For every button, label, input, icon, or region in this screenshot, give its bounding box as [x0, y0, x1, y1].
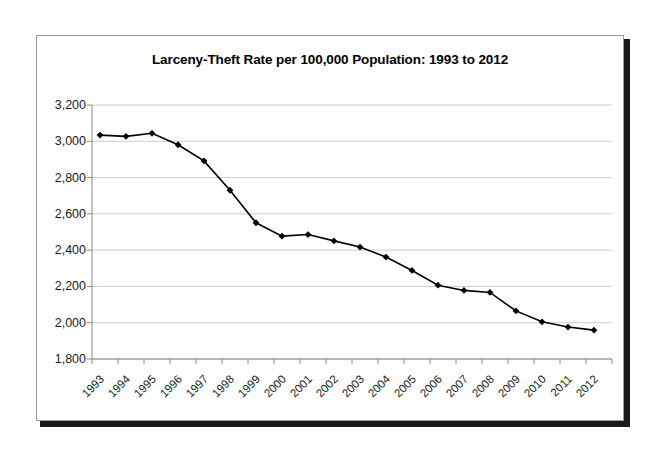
- data-point-marker[interactable]: [305, 231, 312, 238]
- data-point-marker[interactable]: [357, 244, 364, 251]
- data-point-marker[interactable]: [461, 287, 468, 294]
- series-markers: [97, 130, 598, 334]
- data-point-marker[interactable]: [539, 318, 546, 325]
- data-point-marker[interactable]: [123, 133, 130, 140]
- plot-area: 3,2003,0002,8002,6002,4002,2002,0001,800…: [0, 0, 664, 452]
- series-line: [100, 133, 594, 330]
- plot-svg: [0, 0, 664, 452]
- data-point-marker[interactable]: [149, 130, 156, 137]
- data-point-marker[interactable]: [331, 237, 338, 244]
- data-line: [100, 133, 594, 330]
- data-point-marker[interactable]: [409, 267, 416, 274]
- data-point-marker[interactable]: [279, 233, 286, 240]
- data-point-marker[interactable]: [383, 254, 390, 261]
- gridlines: [92, 105, 612, 359]
- chart-screenshot: Larceny-Theft Rate per 100,000 Populatio…: [0, 0, 664, 452]
- data-point-marker[interactable]: [435, 282, 442, 289]
- data-point-marker[interactable]: [97, 132, 104, 139]
- data-point-marker[interactable]: [591, 327, 598, 334]
- axis-lines: [92, 105, 612, 359]
- data-point-marker[interactable]: [565, 324, 572, 331]
- axis-ticks: [87, 105, 612, 364]
